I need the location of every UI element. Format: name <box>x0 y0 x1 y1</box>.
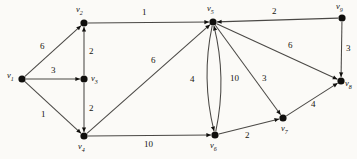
edge-weight-v2-v5: 1 <box>142 8 147 17</box>
node-v8 <box>337 77 344 84</box>
edge-weight-v5-v6: 4 <box>190 75 195 84</box>
edge-weight-v4-v5: 6 <box>151 56 156 65</box>
arrow-heads-layer <box>75 20 343 138</box>
arrowhead-v9-v5 <box>217 20 222 24</box>
graph-figure: v1v2v3v4v5v6v7v8v9 631221610410362423 <box>0 0 357 159</box>
node-v2 <box>80 19 87 26</box>
edge-weight-v1-v4: 1 <box>41 110 46 119</box>
node-v9 <box>338 14 345 21</box>
arrowhead-v3-v4 <box>82 127 86 132</box>
edge-weight-v6-v7: 2 <box>245 131 250 140</box>
edge-v9-v8 <box>341 22 342 77</box>
node-label-v5: v5 <box>207 4 214 15</box>
node-label-v3: v3 <box>91 74 98 85</box>
node-label-v7: v7 <box>281 124 288 135</box>
node-v1 <box>18 75 25 82</box>
node-label-v8: v8 <box>345 79 352 90</box>
node-v7 <box>279 114 286 121</box>
edge-weight-v5-v7: 3 <box>262 74 267 83</box>
node-label-v6: v6 <box>210 141 217 152</box>
arrowhead-v3-v2 <box>82 27 86 32</box>
edge-v5-v6 <box>207 26 214 131</box>
edge-v6-v5 <box>214 26 221 131</box>
node-v5 <box>209 18 216 25</box>
node-label-v4: v4 <box>78 142 85 153</box>
edges-layer <box>25 18 342 136</box>
edge-v4-v6 <box>88 135 211 136</box>
node-label-v9: v9 <box>336 2 343 13</box>
edge-weight-v7-v8: 4 <box>311 100 316 109</box>
edge-weight-v3-v2: 2 <box>89 47 94 56</box>
edge-weight-v4-v6: 10 <box>144 140 153 149</box>
node-label-v2: v2 <box>76 5 83 16</box>
edge-weight-v1-v2: 6 <box>40 42 45 51</box>
graph-canvas <box>0 0 357 159</box>
arrowhead-v2-v5 <box>204 20 209 24</box>
edge-weight-v3-v4: 2 <box>89 104 94 113</box>
arrowhead-v4-v6 <box>206 133 211 137</box>
edge-v9-v5 <box>217 18 338 22</box>
edge-weight-v1-v3: 3 <box>51 66 56 75</box>
edge-v2-v5 <box>88 22 209 23</box>
edge-weight-v9-v5: 2 <box>272 7 277 16</box>
node-v6 <box>211 131 218 138</box>
node-v4 <box>80 132 87 139</box>
edge-weight-v6-v5: 10 <box>230 74 239 83</box>
node-v3 <box>80 75 87 82</box>
edge-weight-v5-v8: 6 <box>288 41 293 50</box>
arrowhead-v9-v8 <box>339 72 343 77</box>
edge-weight-v9-v8: 3 <box>346 44 351 53</box>
node-label-v1: v1 <box>7 71 14 82</box>
edge-v1-v4 <box>25 82 81 134</box>
arrowhead-v1-v3 <box>75 77 80 81</box>
arrowhead-v5-v7 <box>276 110 280 115</box>
